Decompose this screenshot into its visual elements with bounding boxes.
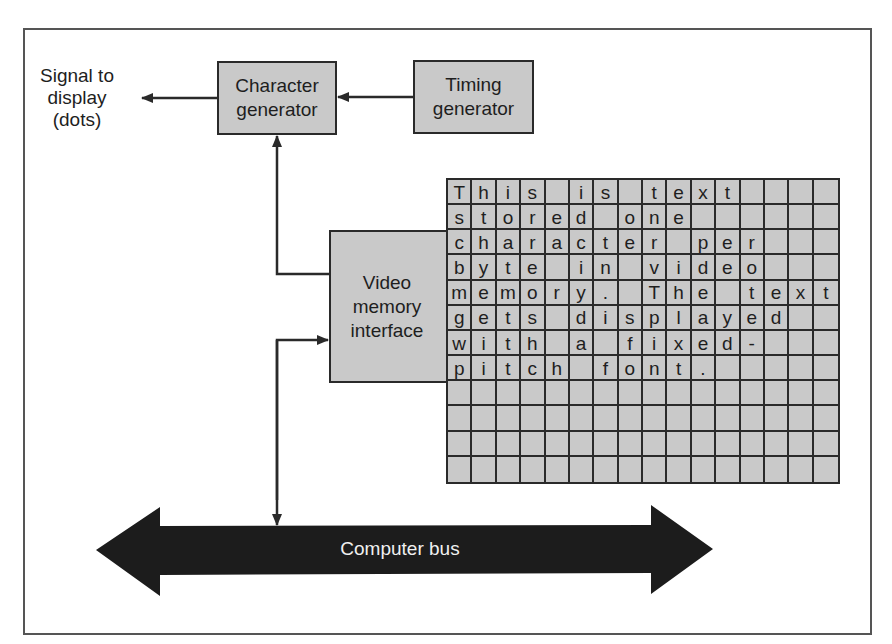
memory-cell [448,457,472,482]
memory-cell [619,432,643,457]
timing-generator-block: Timing generator [413,60,534,134]
memory-cell: e [667,205,691,230]
memory-cell: s [521,180,545,205]
memory-cell [765,230,789,255]
signal-to-display-label: Signal to display (dots) [27,65,127,131]
memory-cell [546,255,570,280]
memory-cell: y [570,281,594,306]
memory-cell: p [643,306,667,331]
video-memory-interface-block: Video memory interface [329,230,448,383]
memory-cell: h [667,281,691,306]
memory-cell [619,406,643,431]
memory-cell [497,432,521,457]
memory-cell: e [619,230,643,255]
memory-cell [570,406,594,431]
signal-label-line-1: Signal to [27,65,127,87]
memory-cell: d [692,255,716,280]
memory-cell: n [643,205,667,230]
memory-cell [716,432,740,457]
memory-cell: i [643,331,667,356]
memory-cell: g [448,306,472,331]
memory-cell [667,432,691,457]
memory-cell [716,406,740,431]
memory-cell [448,381,472,406]
memory-cell [619,180,643,205]
memory-cell: h [546,356,570,381]
memory-cell [619,381,643,406]
computer-bus-label: Computer bus [300,536,500,562]
memory-cell [643,406,667,431]
memory-cell: n [643,356,667,381]
memory-cell: i [594,306,618,331]
vmi-line-2: memory [337,295,437,319]
memory-cell: e [472,306,496,331]
memory-cell: c [521,356,545,381]
memory-cell [570,432,594,457]
memory-cell [667,457,691,482]
memory-cell: a [692,306,716,331]
memory-cell [667,381,691,406]
memory-cell [789,205,813,230]
memory-cell [594,205,618,230]
memory-cell [765,331,789,356]
memory-cell [716,281,740,306]
memory-cell: o [619,205,643,230]
memory-cell [789,457,813,482]
memory-cell [765,255,789,280]
memory-cell [789,306,813,331]
memory-cell [765,432,789,457]
signal-label-line-2: display [27,87,127,109]
memory-cell: . [692,356,716,381]
memory-cell: h [472,230,496,255]
memory-cell [741,180,765,205]
memory-cell [546,306,570,331]
character-generator-line-1: Character [235,74,318,98]
memory-cell: i [472,331,496,356]
memory-cell [497,381,521,406]
memory-cell [814,381,838,406]
memory-cell: r [643,230,667,255]
memory-cell: c [448,230,472,255]
memory-cell [814,230,838,255]
memory-cell [472,432,496,457]
memory-cell [546,180,570,205]
memory-cell: m [497,281,521,306]
memory-cell: t [497,255,521,280]
memory-cell [789,356,813,381]
memory-cell [814,180,838,205]
memory-cell: e [692,331,716,356]
memory-cell [594,432,618,457]
memory-cell: l [667,306,691,331]
memory-cell [521,457,545,482]
memory-cell [667,406,691,431]
memory-cell: t [497,356,521,381]
memory-cell: r [546,281,570,306]
memory-cell: n [594,255,618,280]
memory-cell: i [472,356,496,381]
memory-cell: t [472,205,496,230]
memory-cell: d [716,331,740,356]
memory-cell [667,230,691,255]
memory-cell: x [789,281,813,306]
memory-cell [546,381,570,406]
character-generator-block: Character generator [217,61,337,135]
memory-cell: a [570,331,594,356]
memory-cell: t [594,230,618,255]
memory-cell: r [521,205,545,230]
memory-cell [741,356,765,381]
memory-cell: s [594,180,618,205]
memory-cell: f [619,331,643,356]
memory-cell [570,457,594,482]
timing-generator-line-2: generator [433,97,514,121]
memory-cell: e [667,180,691,205]
memory-cell [814,432,838,457]
memory-cell [497,406,521,431]
memory-cell [472,457,496,482]
memory-cell [789,180,813,205]
memory-cell [716,457,740,482]
character-generator-line-2: generator [235,98,318,122]
memory-cell: a [546,230,570,255]
memory-cell: f [594,356,618,381]
memory-cell: i [497,180,521,205]
memory-cell [741,381,765,406]
